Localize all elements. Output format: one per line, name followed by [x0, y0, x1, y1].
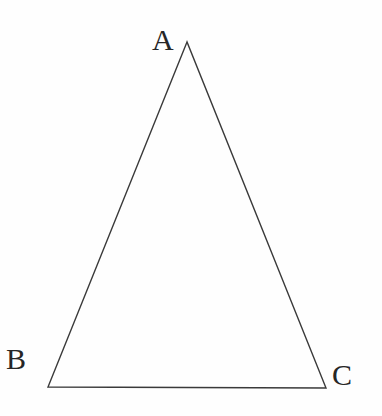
triangle-diagram-canvas: A B C — [0, 0, 382, 416]
vertex-label-c: C — [332, 360, 352, 390]
triangle-abc-outline — [48, 42, 326, 388]
triangle-figure — [0, 0, 382, 416]
vertex-label-a: A — [152, 25, 174, 55]
vertex-label-b: B — [6, 344, 26, 374]
